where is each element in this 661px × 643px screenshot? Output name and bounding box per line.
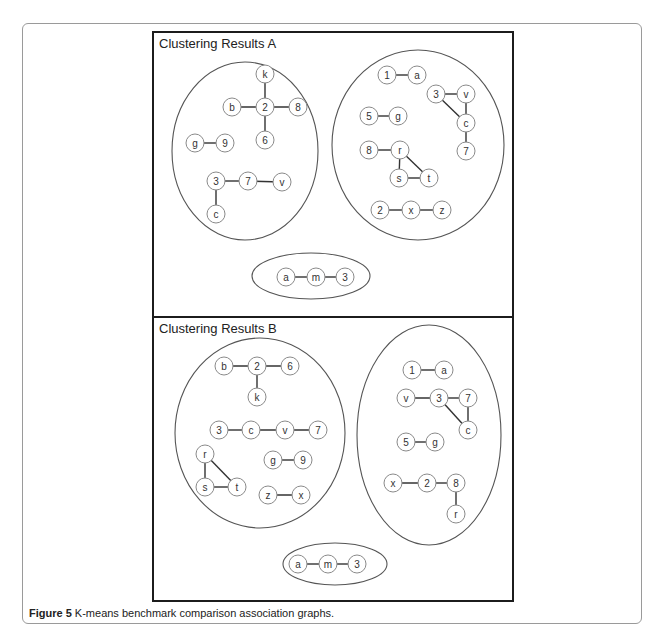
- node-1: 1: [403, 361, 421, 379]
- node-label: c: [214, 209, 219, 220]
- node-8: 8: [360, 141, 378, 159]
- node-v: v: [457, 85, 475, 103]
- node-k: k: [256, 65, 274, 83]
- node-a: a: [289, 555, 307, 573]
- node-label: v: [280, 177, 285, 188]
- node-label: 1: [384, 70, 390, 81]
- node-label: a: [441, 365, 447, 376]
- node-x: x: [384, 474, 402, 492]
- node-label: b: [229, 102, 235, 113]
- node-label: s: [397, 173, 402, 184]
- node-g: g: [264, 451, 282, 469]
- node-label: 3: [436, 393, 442, 404]
- node-label: 2: [262, 102, 268, 113]
- node-7: 7: [457, 142, 475, 160]
- cluster-b-bottom: am3: [283, 543, 387, 585]
- node-r: r: [447, 505, 465, 523]
- caption-text: K-means benchmark comparison association…: [72, 607, 334, 619]
- node-label: 2: [254, 361, 260, 372]
- node-label: 7: [463, 146, 469, 157]
- node-label: g: [192, 138, 198, 149]
- node-z: z: [433, 201, 451, 219]
- node-label: 3: [354, 559, 360, 570]
- node-2: 2: [371, 201, 389, 219]
- cluster-a-bottom: am3: [252, 253, 370, 299]
- node-8: 8: [289, 98, 307, 116]
- association-graphs: kb286g937vc1a3vc75g8rst2xzam3b26k3cv7rst…: [0, 0, 661, 643]
- cluster-b-right: 1av37c5gx28r: [357, 325, 501, 545]
- node-label: x: [299, 490, 304, 501]
- node-label: v: [404, 393, 409, 404]
- node-label: 8: [295, 102, 301, 113]
- node-m: m: [319, 555, 337, 573]
- node-label: g: [270, 455, 276, 466]
- cluster-a-right: 1a3vc75g8rst2xz: [332, 50, 504, 240]
- cluster-a-left: kb286g937vc: [172, 62, 318, 240]
- node-z: z: [259, 486, 277, 504]
- node-x: x: [402, 201, 420, 219]
- node-c: c: [207, 205, 225, 223]
- node-label: 2: [424, 478, 430, 489]
- node-label: c: [466, 425, 471, 436]
- node-r: r: [196, 445, 214, 463]
- caption-label: Figure 5: [29, 607, 72, 619]
- node-label: g: [395, 111, 401, 122]
- node-5: 5: [360, 107, 378, 125]
- node-6: 6: [256, 131, 274, 149]
- node-label: 5: [403, 437, 409, 448]
- node-m: m: [307, 268, 325, 286]
- node-g: g: [389, 107, 407, 125]
- node-label: x: [391, 478, 396, 489]
- node-label: c: [464, 118, 469, 129]
- node-3: 3: [210, 421, 228, 439]
- node-label: 7: [465, 393, 471, 404]
- node-s: s: [390, 169, 408, 187]
- cluster-b-left: b26k3cv7rstg9zx: [175, 338, 345, 528]
- node-9: 9: [216, 134, 234, 152]
- node-label: 7: [315, 425, 321, 436]
- node-label: 6: [287, 361, 293, 372]
- node-label: 2: [377, 205, 383, 216]
- node-label: b: [221, 361, 227, 372]
- node-c: c: [459, 421, 477, 439]
- node-a: a: [408, 66, 426, 84]
- node-label: 3: [213, 176, 219, 187]
- node-a: a: [277, 268, 295, 286]
- node-b: b: [215, 357, 233, 375]
- node-label: 8: [366, 145, 372, 156]
- node-3: 3: [336, 268, 354, 286]
- figure-caption: Figure 5 K-means benchmark comparison as…: [29, 607, 334, 619]
- node-2: 2: [418, 474, 436, 492]
- node-c: c: [242, 421, 260, 439]
- node-label: t: [236, 482, 239, 493]
- node-t: t: [228, 478, 246, 496]
- node-label: 3: [342, 272, 348, 283]
- node-label: 9: [300, 455, 306, 466]
- node-label: a: [283, 272, 289, 283]
- node-label: 7: [245, 176, 251, 187]
- node-g: g: [186, 134, 204, 152]
- node-s: s: [196, 478, 214, 496]
- node-label: x: [409, 205, 414, 216]
- node-label: 9: [222, 138, 228, 149]
- node-6: 6: [281, 357, 299, 375]
- node-g: g: [426, 433, 444, 451]
- node-v: v: [273, 173, 291, 191]
- node-9: 9: [294, 451, 312, 469]
- node-label: c: [249, 425, 254, 436]
- node-r: r: [391, 141, 409, 159]
- node-label: m: [312, 272, 320, 283]
- node-2: 2: [248, 357, 266, 375]
- node-8: 8: [447, 474, 465, 492]
- node-label: 3: [216, 425, 222, 436]
- node-7: 7: [239, 172, 257, 190]
- node-a: a: [435, 361, 453, 379]
- node-k: k: [248, 388, 266, 406]
- node-t: t: [420, 169, 438, 187]
- node-label: a: [295, 559, 301, 570]
- node-label: m: [324, 559, 332, 570]
- node-c: c: [457, 114, 475, 132]
- node-label: 5: [366, 111, 372, 122]
- node-7: 7: [459, 389, 477, 407]
- node-label: z: [266, 490, 271, 501]
